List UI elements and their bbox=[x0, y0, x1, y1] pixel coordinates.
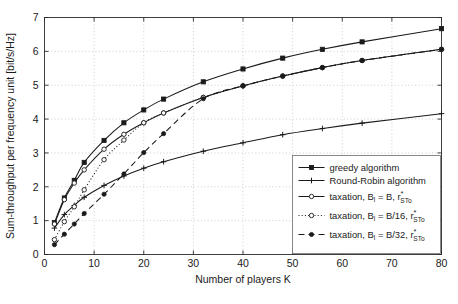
y-tick-label: 7 bbox=[33, 11, 39, 23]
data-point bbox=[142, 121, 146, 125]
data-point bbox=[72, 205, 76, 209]
legend-sample-marker bbox=[309, 165, 313, 169]
data-point bbox=[52, 243, 56, 247]
data-point bbox=[142, 108, 146, 112]
data-point bbox=[72, 222, 76, 226]
data-point bbox=[102, 158, 106, 162]
data-point bbox=[62, 232, 66, 236]
x-tick-label: 60 bbox=[336, 257, 348, 269]
data-point bbox=[241, 67, 245, 71]
data-point bbox=[82, 211, 86, 215]
data-point bbox=[320, 47, 324, 51]
data-point bbox=[320, 66, 324, 70]
data-point bbox=[360, 40, 364, 44]
y-tick-label: 3 bbox=[33, 147, 39, 159]
legend-sample-marker bbox=[309, 194, 313, 198]
data-point bbox=[201, 80, 205, 84]
chart-canvas: 0102030405060708001234567 Number of play… bbox=[0, 0, 458, 304]
legend-sample-marker bbox=[309, 232, 313, 236]
x-tick-label: 30 bbox=[188, 257, 200, 269]
x-tick-label: 10 bbox=[88, 257, 100, 269]
data-point bbox=[439, 47, 443, 51]
legend-label: taxation, Bl = B, r*STo bbox=[330, 189, 412, 204]
data-point bbox=[122, 172, 126, 176]
x-tick-label: 80 bbox=[436, 257, 448, 269]
data-point bbox=[82, 160, 86, 164]
data-point bbox=[281, 74, 285, 78]
data-point bbox=[241, 84, 245, 88]
x-axis-title: Number of players K bbox=[195, 273, 291, 285]
data-point bbox=[62, 197, 66, 201]
x-tick-label: 20 bbox=[138, 257, 150, 269]
data-point bbox=[360, 58, 364, 62]
y-tick-label: 4 bbox=[33, 113, 39, 125]
legend-label: taxation, Bl = B/32, r*STo bbox=[330, 227, 425, 242]
data-point bbox=[161, 111, 165, 115]
y-tick-label: 6 bbox=[33, 45, 39, 57]
legend-label: taxation, Bl = B/16, r*STo bbox=[330, 208, 425, 223]
data-point bbox=[122, 132, 126, 136]
data-point bbox=[102, 147, 106, 151]
data-point bbox=[142, 150, 146, 154]
legend-sample-marker bbox=[309, 213, 313, 217]
chart-figure: 0102030405060708001234567 Number of play… bbox=[0, 0, 458, 304]
legend-label: greedy algorithm bbox=[330, 162, 400, 173]
data-point bbox=[102, 192, 106, 196]
chart-legend[interactable]: greedy algorithmRound-Robin algorithmtax… bbox=[293, 156, 441, 254]
data-point bbox=[122, 121, 126, 125]
data-point bbox=[62, 219, 66, 223]
data-point bbox=[102, 138, 106, 142]
data-point bbox=[162, 97, 166, 101]
y-axis-title: Sum-throughput per frequency unit [bit/s… bbox=[4, 33, 16, 239]
x-tick-label: 40 bbox=[237, 257, 249, 269]
data-point bbox=[52, 237, 56, 241]
data-point bbox=[82, 188, 86, 192]
data-point bbox=[52, 222, 56, 226]
data-point bbox=[122, 138, 126, 142]
data-point bbox=[281, 56, 285, 60]
data-point bbox=[72, 181, 76, 185]
x-tick-label: 50 bbox=[287, 257, 299, 269]
legend-label: Round-Robin algorithm bbox=[330, 175, 427, 186]
x-tick-label: 70 bbox=[386, 257, 398, 269]
y-tick-label: 0 bbox=[33, 248, 39, 260]
y-tick-label: 2 bbox=[33, 181, 39, 193]
data-point bbox=[82, 168, 86, 172]
data-point bbox=[201, 97, 205, 101]
y-tick-label: 5 bbox=[33, 79, 39, 91]
y-tick-label: 1 bbox=[33, 214, 39, 226]
data-point bbox=[439, 27, 443, 31]
data-point bbox=[162, 132, 166, 136]
x-tick-label: 0 bbox=[42, 257, 48, 269]
